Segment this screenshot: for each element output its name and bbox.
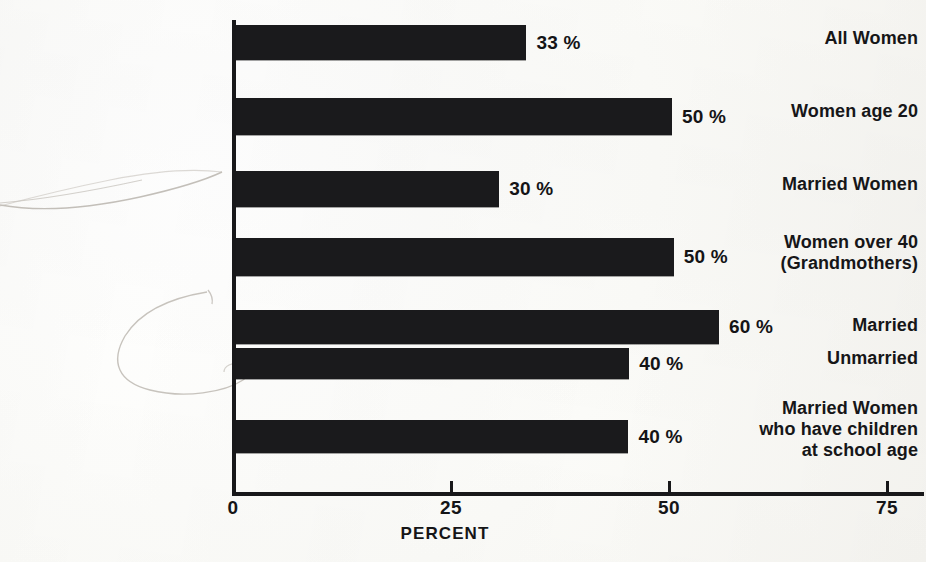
bar-6 bbox=[236, 420, 628, 453]
x-axis-tick-label-75: 75 bbox=[876, 497, 898, 519]
category-label-women-over-40: Women over 40 (Grandmothers) bbox=[700, 232, 926, 274]
category-label-married-women: Married Women bbox=[700, 174, 926, 195]
bar-3 bbox=[236, 238, 674, 276]
x-axis-tick-label-25: 25 bbox=[440, 497, 462, 519]
bar-5 bbox=[236, 348, 629, 379]
bar-value-label-0: 33 % bbox=[536, 32, 580, 54]
x-axis-tick-label-50: 50 bbox=[658, 497, 680, 519]
bar-value-label-6: 40 % bbox=[638, 426, 682, 448]
x-axis-title: PERCENT bbox=[0, 524, 926, 544]
plot-area: 0 25 50 75 PERCENT 33 %50 %30 %50 %60 %4… bbox=[0, 0, 926, 562]
category-label-all-women: All Women bbox=[700, 28, 926, 49]
x-axis-line bbox=[232, 492, 924, 496]
bar-1 bbox=[236, 98, 672, 135]
category-label-women-age-20: Women age 20 bbox=[700, 101, 926, 122]
bar-chart: 0 25 50 75 PERCENT 33 %50 %30 %50 %60 %4… bbox=[0, 0, 926, 562]
bar-value-label-5: 40 % bbox=[639, 353, 683, 375]
x-axis-title-text: PERCENT bbox=[401, 524, 490, 544]
x-axis-tick-75 bbox=[886, 481, 889, 492]
bar-value-label-2: 30 % bbox=[509, 178, 553, 200]
x-axis-tick-25 bbox=[450, 481, 453, 492]
bar-2 bbox=[236, 171, 499, 207]
category-label-married-women-children: Married Women who have children at schoo… bbox=[700, 398, 926, 461]
bar-0 bbox=[236, 25, 526, 60]
bar-4 bbox=[236, 310, 719, 344]
x-axis-tick-0 bbox=[232, 481, 235, 492]
category-label-married: Married bbox=[700, 315, 926, 336]
x-axis-tick-50 bbox=[668, 481, 671, 492]
x-axis-tick-label-0: 0 bbox=[227, 497, 238, 519]
category-label-unmarried: Unmarried bbox=[700, 348, 926, 369]
